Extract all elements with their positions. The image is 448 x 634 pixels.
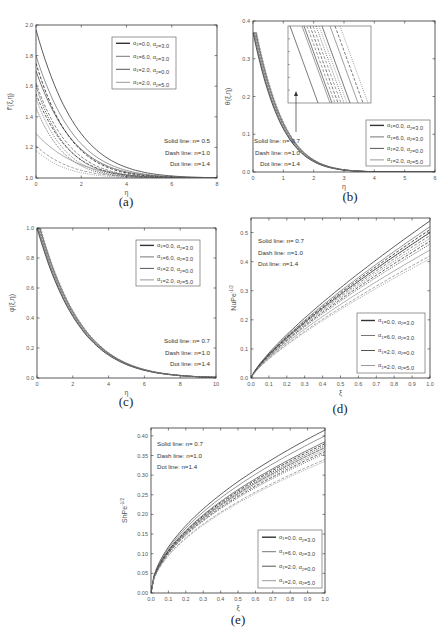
y-tick-label: 0.25: [137, 492, 148, 498]
legend: α1=0.0, α2=3.0α1=6.0, α2=3.0α1=2.0, α2=0…: [258, 530, 322, 588]
y-tick-label: 0.0: [26, 375, 34, 381]
x-tick-label: 6: [433, 175, 436, 181]
y-tick-label: 0.0: [242, 169, 250, 175]
chart-c: 02468100.00.20.40.60.81.0ηφ(ξ,η)Solid li…: [8, 225, 220, 409]
y-axis-label: θ(ξ,η): [224, 88, 232, 106]
y-tick-label: 0.1: [242, 131, 250, 137]
y-tick-label: 0.0: [240, 375, 248, 381]
chart-a: 024681.01.21.41.61.82.0ηf'(ξ,η)Solid lin…: [6, 22, 219, 209]
x-tick-label: 1.0: [321, 596, 329, 602]
line-style-note: Dash line: n=1.0: [165, 349, 210, 356]
y-axis-label: f'(ξ,η): [6, 93, 14, 110]
x-tick-label: 2: [312, 175, 315, 181]
x-tick-label: 6: [143, 381, 146, 387]
y-tick-label: 0.4: [242, 18, 250, 24]
y-axis-label: NuPe-1/2: [229, 285, 237, 311]
y-tick-label: 1.0: [26, 225, 34, 231]
x-tick-label: 8: [179, 381, 182, 387]
y-tick-label: 0.4: [26, 315, 34, 321]
x-tick-label: 0.8: [390, 381, 398, 387]
x-tick-label: 0.9: [304, 596, 312, 602]
x-tick-label: 0.1: [165, 596, 173, 602]
x-tick-label: 0.0: [247, 381, 255, 387]
y-tick-label: 0.8: [26, 255, 34, 261]
line-style-note: Dash line: n=1.0: [157, 452, 202, 459]
x-tick-label: 0.6: [252, 596, 260, 602]
chart-b: 01234560.00.10.20.30.4ηθ(ξ,η)Solid line:…: [224, 18, 439, 204]
y-tick-label: 1.4: [25, 114, 33, 120]
legend: α1=0.0, α2=3.0α1=6.0, α2=3.0α1=2.0, α2=0…: [112, 37, 176, 89]
y-tick-label: 1.6: [25, 83, 33, 89]
line-style-note: Dot line: n=1.4: [170, 160, 211, 167]
x-axis-label: ξ: [236, 604, 239, 612]
chart-e: 0.00.10.20.30.40.50.60.70.80.91.00.000.0…: [120, 428, 329, 627]
line-style-note: Solid line: n= 0.7: [157, 440, 203, 447]
x-tick-label: 2: [71, 381, 74, 387]
y-axis-label: φ(ξ,η): [8, 294, 16, 312]
x-tick-label: 4: [373, 175, 376, 181]
line-style-note: Dot line: n=1.4: [157, 463, 198, 470]
line-style-note: Dot line: n=1.4: [170, 360, 211, 367]
x-tick-label: 0.6: [355, 381, 363, 387]
x-tick-label: 6: [170, 181, 173, 187]
figure-caption: (e): [231, 612, 245, 627]
x-tick-label: 0.4: [217, 596, 225, 602]
y-tick-label: 0.1: [240, 346, 248, 352]
x-tick-label: 8: [215, 181, 218, 187]
y-tick-label: 0.30: [137, 472, 148, 478]
figure-caption: (a): [119, 194, 133, 209]
legend: α1=0.0, α2=3.0α1=6.0, α2=3.0α1=2.0, α2=0…: [136, 240, 200, 286]
x-tick-label: 0.7: [372, 381, 380, 387]
figure-caption: (d): [332, 401, 347, 416]
x-tick-label: 0.9: [408, 381, 416, 387]
y-tick-label: 0.3: [240, 288, 248, 294]
y-tick-label: 1.2: [25, 144, 33, 150]
x-axis-label: ξ: [339, 389, 342, 397]
y-tick-label: 0.5: [240, 230, 248, 236]
x-tick-label: 0.4: [319, 381, 327, 387]
x-tick-label: 0.5: [234, 596, 242, 602]
x-tick-label: 0.5: [337, 381, 345, 387]
legend: α1=0.0, α2=3.0α1=6.0, α2=3.0α1=2.0, α2=0…: [366, 120, 430, 166]
x-tick-label: 0: [34, 181, 37, 187]
y-tick-label: 0.35: [137, 453, 148, 459]
y-tick-label: 0.00: [137, 590, 148, 596]
x-tick-label: 4: [125, 181, 128, 187]
line-style-note: Solid line: n= 0.7: [258, 237, 304, 244]
y-tick-label: 0.3: [242, 56, 250, 62]
x-tick-label: 10: [213, 381, 219, 387]
line-style-note: Dash line: n=1.0: [165, 149, 210, 156]
x-tick-label: 0.0: [147, 596, 155, 602]
x-tick-label: 0.3: [301, 381, 309, 387]
line-style-note: Solid line: n= 0.7: [164, 337, 210, 344]
x-tick-label: 0.1: [265, 381, 273, 387]
line-style-note: Dash line: n=1.0: [258, 249, 303, 256]
x-tick-label: 0.2: [283, 381, 291, 387]
chart-d: 0.00.10.20.30.40.50.60.70.80.91.00.00.10…: [229, 218, 434, 416]
y-tick-label: 0.05: [137, 570, 148, 576]
legend: α1=0.0, α2=3.0α1=6.0, α2=3.0α1=2.0, α2=0…: [357, 313, 425, 373]
x-tick-label: 0.8: [286, 596, 294, 602]
y-tick-label: 0.2: [240, 317, 248, 323]
x-tick-label: 1.0: [426, 381, 434, 387]
x-tick-label: 0: [251, 175, 254, 181]
y-tick-label: 2.0: [25, 22, 33, 28]
line-style-note: Solid line: n= 0.7: [254, 137, 300, 144]
line-style-note: Dash line: n=1.0: [255, 149, 300, 156]
y-tick-label: 0.10: [137, 551, 148, 557]
x-tick-label: 2: [80, 181, 83, 187]
x-tick-label: 3: [342, 175, 345, 181]
x-tick-label: 0.3: [199, 596, 207, 602]
figure-canvas: 024681.01.21.41.61.82.0ηf'(ξ,η)Solid lin…: [0, 0, 448, 634]
figure-caption: (c): [119, 394, 133, 409]
x-tick-label: 4: [107, 381, 110, 387]
line-style-note: Dot line: n=1.4: [260, 160, 301, 167]
y-tick-label: 0.2: [26, 345, 34, 351]
x-tick-label: 1: [282, 175, 285, 181]
y-tick-label: 0.15: [137, 531, 148, 537]
y-axis-label: ShPe-1/2: [120, 498, 128, 523]
y-tick-label: 0.6: [26, 285, 34, 291]
y-tick-label: 0.4: [240, 259, 248, 265]
x-tick-label: 0.2: [182, 596, 190, 602]
y-tick-label: 0.40: [137, 433, 148, 439]
